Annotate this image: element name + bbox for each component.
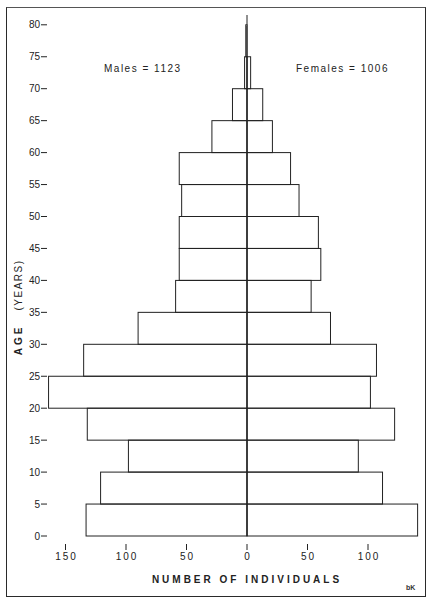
male-bar-35-40 [176, 280, 247, 312]
female-bar-10-15 [247, 440, 358, 472]
male-bar-45-50 [179, 217, 247, 249]
female-bar-40-45 [247, 248, 321, 280]
male-bar-65-70 [232, 89, 247, 121]
population-pyramid-chart: 05101520253035404550556065707580 1501005… [0, 0, 432, 608]
x-tick-label: 100 [358, 551, 381, 562]
y-tick-label: 60 [29, 147, 41, 158]
x-tick-label: 50 [301, 551, 316, 562]
male-bar-55-60 [179, 153, 247, 185]
males-total-label: Males = 1123 [104, 63, 182, 74]
male-bar-30-35 [138, 312, 247, 344]
female-bar-55-60 [247, 153, 291, 185]
y-tick-label: 40 [29, 275, 41, 286]
male-bar-5-10 [101, 472, 247, 504]
y-tick-label: 70 [29, 83, 41, 94]
female-bar-50-55 [247, 185, 299, 217]
y-tick-label: 55 [29, 179, 41, 190]
y-tick-label: 65 [29, 115, 41, 126]
y-tick-label: 45 [29, 243, 41, 254]
female-bar-70-75 [247, 57, 251, 89]
female-bar-65-70 [247, 89, 263, 121]
y-axis-title-years: (YEARS) [13, 259, 24, 310]
females-total-label: Females = 1006 [296, 63, 389, 74]
bars-group [49, 25, 418, 536]
y-tick-label: 80 [29, 19, 41, 30]
male-bar-10-15 [128, 440, 247, 472]
male-bar-15-20 [87, 408, 247, 440]
male-bar-60-65 [212, 121, 247, 153]
male-bar-20-25 [49, 376, 247, 408]
male-bar-25-30 [84, 344, 247, 376]
female-bar-60-65 [247, 121, 272, 153]
female-bar-0-5 [247, 504, 418, 536]
female-bar-25-30 [247, 344, 376, 376]
y-axis-ticks: 05101520253035404550556065707580 [29, 19, 47, 541]
x-tick-label: 100 [116, 551, 139, 562]
x-tick-label: 150 [55, 551, 78, 562]
female-bar-15-20 [247, 408, 395, 440]
y-tick-label: 0 [34, 531, 40, 542]
male-bar-0-5 [86, 504, 247, 536]
male-bar-50-55 [182, 185, 247, 217]
x-tick-label: 50 [180, 551, 195, 562]
y-axis-title-age: AGE [13, 325, 24, 356]
x-tick-label: 0 [244, 551, 252, 562]
y-tick-label: 30 [29, 339, 41, 350]
y-tick-label: 10 [29, 467, 41, 478]
y-tick-label: 75 [29, 51, 41, 62]
y-tick-label: 50 [29, 211, 41, 222]
y-tick-label: 20 [29, 403, 41, 414]
female-bar-35-40 [247, 280, 311, 312]
male-bar-40-45 [179, 248, 247, 280]
x-axis-ticks: 15010050050100 [55, 544, 380, 562]
corner-mark: bK [406, 584, 415, 591]
female-bar-20-25 [247, 376, 370, 408]
x-axis-title: NUMBER OF INDIVIDUALS [152, 574, 342, 585]
female-bar-30-35 [247, 312, 330, 344]
female-bar-5-10 [247, 472, 383, 504]
y-tick-label: 35 [29, 307, 41, 318]
y-tick-label: 15 [29, 435, 41, 446]
y-tick-label: 5 [34, 499, 40, 510]
y-tick-label: 25 [29, 371, 41, 382]
female-bar-45-50 [247, 217, 318, 249]
